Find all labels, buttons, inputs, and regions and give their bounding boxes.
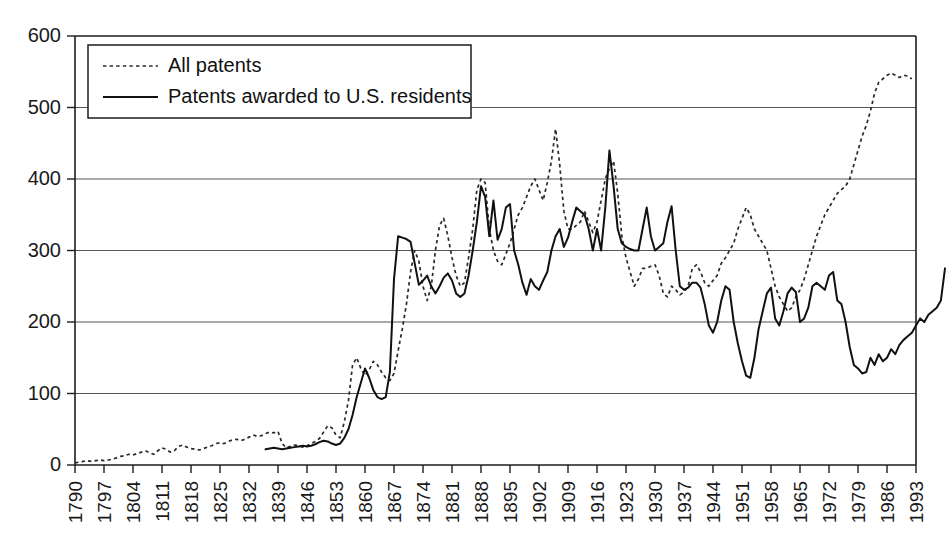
x-tick-label-1895: 1895 — [500, 481, 521, 523]
x-tick-label-1888: 1888 — [471, 481, 492, 523]
y-tick-label-600: 600 — [28, 24, 61, 46]
x-tick-label-1853: 1853 — [326, 481, 347, 523]
x-tick-label-1951: 1951 — [732, 481, 753, 523]
y-tick-label-300: 300 — [28, 239, 61, 261]
x-tick-label-1958: 1958 — [761, 481, 782, 523]
series-all-patents — [75, 73, 912, 463]
x-tick-label-1923: 1923 — [616, 481, 637, 523]
x-tick-label-1790: 1790 — [65, 481, 86, 523]
x-tick-label-1881: 1881 — [442, 481, 463, 523]
x-tick-label-1916: 1916 — [587, 481, 608, 523]
chart-canvas: 0100200300400500600 17901797180418111818… — [0, 0, 947, 552]
x-tick-label-1972: 1972 — [819, 481, 840, 523]
x-tick-label-1797: 1797 — [94, 481, 115, 523]
legend-label-us-residents: Patents awarded to U.S. residents — [168, 85, 472, 107]
x-tick-label-1846: 1846 — [297, 481, 318, 523]
x-tick-label-1867: 1867 — [384, 481, 405, 523]
x-tick-label-1804: 1804 — [123, 481, 144, 524]
x-axis-ticks — [75, 465, 916, 473]
x-tick-label-1860: 1860 — [355, 481, 376, 523]
x-tick-label-1811: 1811 — [152, 481, 173, 522]
y-tick-label-500: 500 — [28, 96, 61, 118]
y-tick-label-400: 400 — [28, 167, 61, 189]
x-tick-label-1839: 1839 — [268, 481, 289, 523]
x-tick-label-1965: 1965 — [790, 481, 811, 523]
patents-chart: 0100200300400500600 17901797180418111818… — [0, 0, 947, 552]
series-us-residents — [266, 150, 945, 449]
x-axis-tick-labels: 1790179718041811181818251832183918461853… — [65, 481, 927, 524]
x-tick-label-1979: 1979 — [848, 481, 869, 523]
x-tick-label-1986: 1986 — [877, 481, 898, 523]
x-tick-label-1909: 1909 — [558, 481, 579, 523]
y-tick-label-0: 0 — [50, 453, 61, 475]
y-axis-tick-labels: 0100200300400500600 — [28, 24, 61, 475]
x-tick-label-1930: 1930 — [645, 481, 666, 523]
y-axis-ticks — [67, 36, 75, 465]
x-tick-label-1874: 1874 — [413, 481, 434, 524]
x-tick-label-1944: 1944 — [703, 481, 724, 524]
x-tick-label-1825: 1825 — [210, 481, 231, 523]
x-tick-label-1818: 1818 — [181, 481, 202, 523]
legend-label-all-patents: All patents — [168, 54, 261, 76]
y-tick-label-200: 200 — [28, 310, 61, 332]
x-tick-label-1902: 1902 — [529, 481, 550, 523]
x-tick-label-1993: 1993 — [906, 481, 927, 523]
x-tick-label-1832: 1832 — [239, 481, 260, 523]
x-tick-label-1937: 1937 — [674, 481, 695, 523]
legend: All patents Patents awarded to U.S. resi… — [88, 45, 472, 118]
y-tick-label-100: 100 — [28, 382, 61, 404]
